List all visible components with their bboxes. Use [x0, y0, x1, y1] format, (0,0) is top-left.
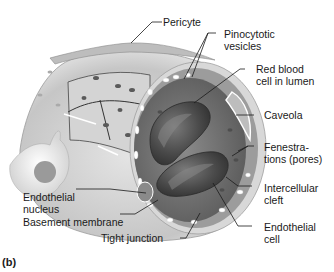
label-caveola: Caveola	[264, 109, 303, 121]
label-tight-junction: Tight junction	[101, 232, 163, 244]
label-red-blood-cell: Red blood cell in lumen	[256, 63, 314, 87]
panel-label: (b)	[2, 256, 16, 268]
label-basement-membrane: Basement membrane	[23, 216, 123, 228]
label-intercellular-cleft: Intercellular cleft	[264, 182, 318, 206]
label-pericyte: Pericyte	[163, 16, 201, 28]
label-endothelial-nucleus: Endothelial nucleus	[23, 191, 75, 215]
label-pinocytotic-vesicles: Pinocytotic vesicles	[224, 28, 275, 52]
label-fenestrations: Fenestra- tions (pores)	[264, 141, 322, 165]
label-endothelial-cell: Endothelial cell	[264, 221, 316, 245]
